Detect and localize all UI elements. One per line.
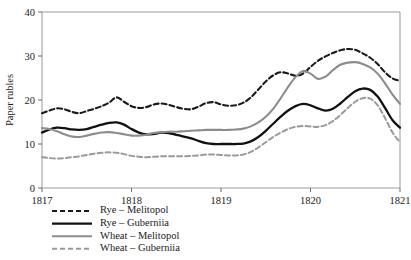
chart-container: 010203040 18171818181918201821 Paper rub… [0, 0, 411, 260]
series-line-rye-melitopol [42, 49, 400, 113]
y-tick-label: 30 [25, 51, 36, 62]
legend-label-2: Wheat – Melitopol [100, 230, 179, 241]
series-line-wheat-guberniia [42, 98, 400, 159]
y-tick-label: 10 [25, 139, 36, 150]
axis-frame [42, 12, 400, 188]
y-axis-ticks: 010203040 [25, 7, 43, 194]
y-tick-label: 0 [30, 183, 35, 194]
price-line-chart: 010203040 18171818181918201821 Paper rub… [0, 0, 411, 260]
x-axis-ticks: 18171818181918201821 [32, 188, 411, 206]
y-tick-label: 40 [25, 7, 36, 18]
y-axis-title: Paper rubles [4, 74, 15, 126]
legend-label-1: Rye – Guberniia [100, 217, 169, 228]
x-tick-label: 1819 [211, 195, 232, 206]
x-tick-label: 1817 [32, 195, 53, 206]
y-tick-label: 20 [25, 95, 36, 106]
series-line-rye-guberniia [42, 88, 400, 144]
series-lines [42, 49, 400, 159]
legend-label-0: Rye – Melitopol [100, 204, 168, 215]
plot-frame [42, 12, 400, 188]
chart-legend: Rye – MelitopolRye – GuberniiaWheat – Me… [52, 204, 180, 253]
y-axis-title-text: Paper rubles [4, 74, 15, 126]
x-tick-label: 1821 [390, 195, 411, 206]
legend-label-3: Wheat – Guberniia [100, 242, 180, 253]
x-tick-label: 1820 [300, 195, 321, 206]
